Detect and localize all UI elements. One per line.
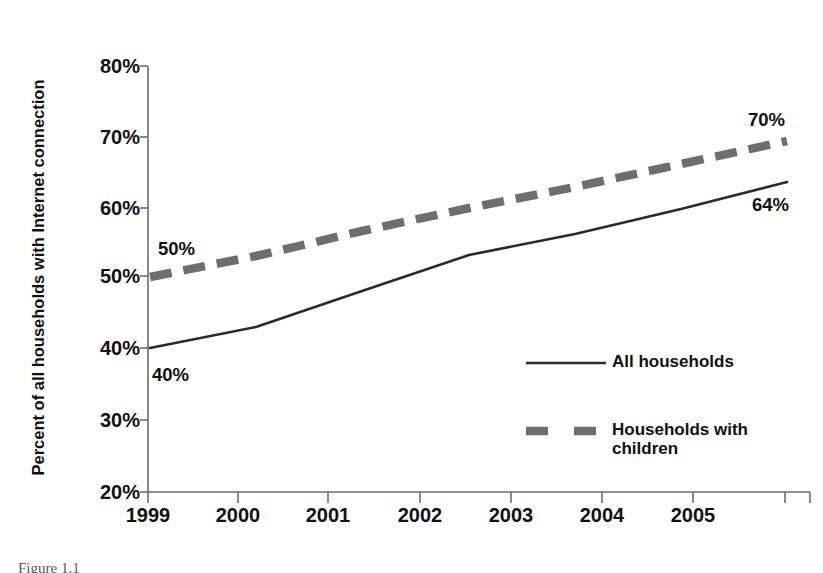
data-label-all-2005: 64% bbox=[752, 196, 789, 215]
x-axis-ticks bbox=[148, 492, 810, 503]
data-label-children-1999: 50% bbox=[158, 240, 195, 259]
y-axis-ticks bbox=[140, 66, 148, 492]
legend-label-households-with-children: Households with children bbox=[608, 420, 782, 458]
legend-item-households-with-children[interactable]: Households with children bbox=[524, 420, 814, 458]
series-line-households-with-children bbox=[150, 141, 787, 277]
plot-area bbox=[0, 0, 823, 573]
data-label-children-2005: 70% bbox=[748, 111, 785, 130]
figure-caption: Figure 1.1 bbox=[18, 560, 80, 573]
chart-figure: Percent of all households with Internet … bbox=[0, 0, 823, 573]
legend-swatch-solid-line bbox=[524, 352, 608, 374]
data-label-all-1999: 40% bbox=[152, 366, 189, 385]
legend-swatch-dashed-line bbox=[524, 420, 608, 442]
legend-label-all-households: All households bbox=[608, 352, 734, 371]
chart-legend: All households Households with children bbox=[524, 352, 814, 458]
legend-item-all-households[interactable]: All households bbox=[524, 352, 814, 374]
